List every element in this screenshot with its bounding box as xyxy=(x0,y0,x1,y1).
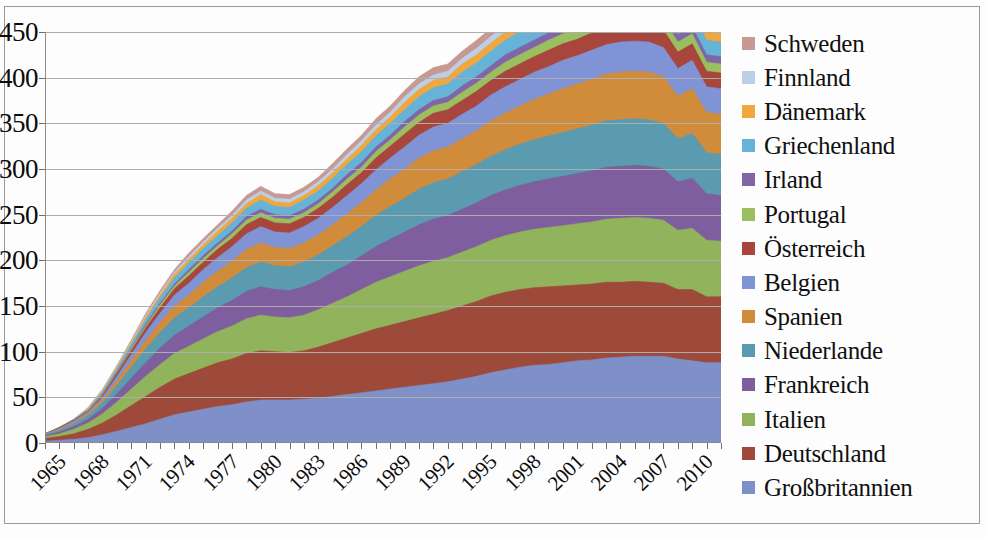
legend-item[interactable]: Italien xyxy=(742,402,982,436)
gridline xyxy=(45,123,721,124)
x-tick-mark xyxy=(347,443,348,449)
x-axis-tick-label: 1974 xyxy=(156,451,200,495)
gridline xyxy=(45,397,721,398)
y-axis-tick-label: 250 xyxy=(0,201,38,228)
x-axis-tick-label: 1980 xyxy=(242,451,286,495)
y-axis-tick-label: 50 xyxy=(12,384,38,411)
x-axis-labels: 1965196819711974197719801983198619891992… xyxy=(45,443,721,523)
legend-item[interactable]: Frankreich xyxy=(742,368,982,402)
legend-item[interactable]: Belgien xyxy=(742,265,982,299)
x-axis-tick-label: 1968 xyxy=(69,451,113,495)
x-axis-tick-label: 2004 xyxy=(587,451,631,495)
legend-item-label: Italien xyxy=(764,407,826,432)
legend-color-swatch xyxy=(742,71,755,84)
legend-item[interactable]: Großbritannien xyxy=(742,470,982,504)
x-tick-mark xyxy=(649,443,650,449)
legend-item[interactable]: Finnland xyxy=(742,60,982,94)
x-tick-mark xyxy=(635,443,636,449)
x-tick-mark xyxy=(146,443,147,449)
x-tick-mark xyxy=(218,443,219,449)
x-tick-mark xyxy=(405,443,406,449)
x-tick-mark xyxy=(606,443,607,449)
x-tick-mark xyxy=(376,443,377,449)
y-axis-tick-label: 450 xyxy=(0,19,38,46)
x-tick-mark xyxy=(462,443,463,449)
x-tick-mark xyxy=(189,443,190,449)
legend-item[interactable]: Niederlande xyxy=(742,334,982,368)
x-tick-mark xyxy=(59,443,60,449)
legend-item-label: Spanien xyxy=(764,304,842,329)
y-tick-mark xyxy=(39,260,45,261)
legend-item[interactable]: Schweden xyxy=(742,26,982,60)
legend-color-swatch xyxy=(742,242,755,255)
x-tick-mark xyxy=(721,443,722,449)
legend-item-label: Großbritannien xyxy=(764,475,913,500)
legend-color-swatch xyxy=(742,139,755,152)
x-tick-mark xyxy=(419,443,420,449)
x-tick-mark xyxy=(620,443,621,449)
legend-item-label: Finnland xyxy=(764,65,851,90)
x-tick-mark xyxy=(491,443,492,449)
legend-item[interactable]: Deutschland xyxy=(742,436,982,470)
x-tick-mark xyxy=(707,443,708,449)
x-tick-mark xyxy=(333,443,334,449)
legend-item-label: Schweden xyxy=(764,31,864,56)
legend-item[interactable]: Österreich xyxy=(742,231,982,265)
y-axis-tick-label: 0 xyxy=(25,430,38,457)
gridline xyxy=(45,306,721,307)
x-tick-mark xyxy=(433,443,434,449)
x-tick-mark xyxy=(290,443,291,449)
gridline xyxy=(45,169,721,170)
x-tick-mark xyxy=(103,443,104,449)
x-tick-mark xyxy=(74,443,75,449)
x-axis-tick-label: 1977 xyxy=(199,451,243,495)
y-tick-mark xyxy=(39,169,45,170)
legend-item-label: Deutschland xyxy=(764,441,886,466)
gridline xyxy=(45,352,721,353)
y-axis-tick-label: 200 xyxy=(0,247,38,274)
legend-item[interactable]: Spanien xyxy=(742,300,982,334)
x-tick-mark xyxy=(563,443,564,449)
x-tick-mark xyxy=(232,443,233,449)
x-tick-mark xyxy=(246,443,247,449)
x-tick-mark xyxy=(174,443,175,449)
y-axis-tick-label: 150 xyxy=(0,293,38,320)
legend-item[interactable]: Irland xyxy=(742,163,982,197)
x-axis-tick-label: 1989 xyxy=(371,451,415,495)
legend-item[interactable]: Portugal xyxy=(742,197,982,231)
x-axis-tick-label: 2010 xyxy=(673,451,717,495)
y-tick-mark xyxy=(39,352,45,353)
y-tick-mark xyxy=(39,215,45,216)
legend-color-swatch xyxy=(742,37,755,50)
x-axis-tick-label: 1986 xyxy=(328,451,372,495)
x-tick-mark xyxy=(390,443,391,449)
x-tick-mark xyxy=(88,443,89,449)
y-axis-tick-label: 300 xyxy=(0,156,38,183)
x-tick-mark xyxy=(663,443,664,449)
x-tick-mark xyxy=(534,443,535,449)
legend-item-label: Dänemark xyxy=(764,99,866,124)
gridline xyxy=(45,78,721,79)
x-tick-mark xyxy=(131,443,132,449)
x-tick-mark xyxy=(678,443,679,449)
legend-item[interactable]: Dänemark xyxy=(742,94,982,128)
x-axis-tick-label: 2001 xyxy=(544,451,588,495)
x-tick-mark xyxy=(592,443,593,449)
gridline xyxy=(45,215,721,216)
x-tick-mark xyxy=(304,443,305,449)
y-axis-tick-label: 100 xyxy=(0,338,38,365)
x-tick-mark xyxy=(548,443,549,449)
y-axis-tick-label: 350 xyxy=(0,110,38,137)
legend-color-swatch xyxy=(742,378,755,391)
x-tick-mark xyxy=(45,443,46,449)
x-tick-mark xyxy=(520,443,521,449)
y-axis-labels: 450400350300250200150100500 xyxy=(0,32,38,443)
legend-color-swatch xyxy=(742,105,755,118)
x-axis-tick-label: 1998 xyxy=(501,451,545,495)
x-tick-mark xyxy=(577,443,578,449)
x-axis-tick-label: 1983 xyxy=(285,451,329,495)
plot-area xyxy=(45,32,721,443)
stacked-area-plot xyxy=(45,32,721,443)
legend-item[interactable]: Griechenland xyxy=(742,129,982,163)
legend-color-swatch xyxy=(742,276,755,289)
